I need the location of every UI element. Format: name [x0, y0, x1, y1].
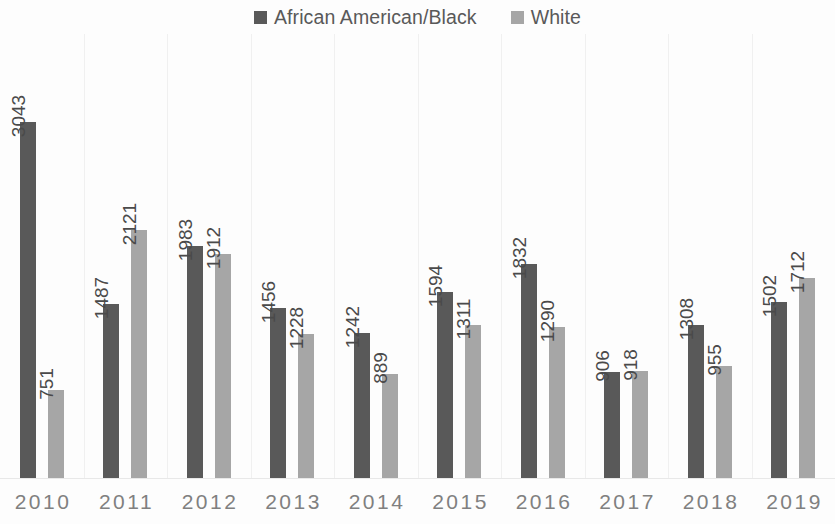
bar-pair: 19831912: [167, 34, 251, 478]
bar-white-2017[interactable]: 918: [632, 34, 648, 478]
bar-rect[interactable]: [799, 278, 815, 478]
bar-group-2014: 1242889: [334, 34, 418, 478]
chart-plot-area: 3043751148721211983191214561228124288915…: [0, 34, 835, 478]
bar-group-2018: 1308955: [668, 34, 752, 478]
bar-pair: 15021712: [752, 34, 835, 478]
bar-pair: 1242889: [334, 34, 418, 478]
bar-rect[interactable]: [632, 371, 648, 478]
bar-group-2016: 18321290: [501, 34, 585, 478]
bar-value-label: 1487: [92, 277, 111, 319]
legend-label: African American/Black: [274, 6, 477, 29]
bar-group-2017: 906918: [585, 34, 669, 478]
bar-pair: 3043751: [0, 34, 84, 478]
x-axis-tick-labels: 2010201120122013201420152016201720182019: [0, 479, 835, 524]
bar-rect[interactable]: [48, 390, 64, 478]
x-tick-label-2013: 2013: [251, 479, 335, 524]
bar-value-label: 1594: [426, 264, 445, 306]
bar-pair: 1308955: [668, 34, 752, 478]
bar-white-2012[interactable]: 1912: [215, 34, 231, 478]
legend-entry-african-american-black: African American/Black: [254, 6, 477, 29]
bar-black-2015[interactable]: 1594: [437, 34, 453, 478]
bar-group-2013: 14561228: [251, 34, 335, 478]
bar-black-2016[interactable]: 1832: [521, 34, 537, 478]
x-tick-label-2011: 2011: [84, 479, 168, 524]
bar-value-label: 906: [593, 350, 612, 382]
bar-group-2012: 19831912: [167, 34, 251, 478]
bar-group-2015: 15941311: [418, 34, 502, 478]
bar-pair: 18321290: [501, 34, 585, 478]
legend-label: White: [531, 6, 581, 29]
x-tick-label-2010: 2010: [0, 479, 84, 524]
bar-value-label: 3043: [9, 95, 28, 137]
x-tick-label-2015: 2015: [418, 479, 502, 524]
bar-black-2011[interactable]: 1487: [103, 34, 119, 478]
bar-rect[interactable]: [604, 372, 620, 478]
bar-value-label: 2121: [120, 203, 139, 245]
legend-swatch-icon: [254, 11, 267, 24]
bar-black-2013[interactable]: 1456: [270, 34, 286, 478]
bar-white-2011[interactable]: 2121: [131, 34, 147, 478]
chart-legend: African American/Black White: [0, 0, 835, 34]
bar-white-2013[interactable]: 1228: [298, 34, 314, 478]
bar-pair: 906918: [585, 34, 669, 478]
legend-entry-white: White: [511, 6, 581, 29]
x-tick-label-2017: 2017: [585, 479, 669, 524]
bar-value-label: 955: [705, 344, 724, 376]
bar-black-2010[interactable]: 3043: [20, 34, 36, 478]
bar-rect[interactable]: [521, 264, 537, 478]
bar-rect[interactable]: [437, 292, 453, 478]
x-tick-label-2019: 2019: [752, 479, 835, 524]
bar-rect[interactable]: [131, 230, 147, 478]
bar-rect[interactable]: [771, 302, 787, 478]
bar-group-2010: 3043751: [0, 34, 84, 478]
bar-value-label: 889: [371, 352, 390, 384]
bar-group-2011: 14872121: [84, 34, 168, 478]
bar-value-label: 1456: [259, 281, 278, 323]
bar-white-2014[interactable]: 889: [382, 34, 398, 478]
bar-rect[interactable]: [298, 334, 314, 478]
bar-rect[interactable]: [716, 366, 732, 478]
bar-groups: 3043751148721211983191214561228124288915…: [0, 34, 835, 478]
bar-rect[interactable]: [382, 374, 398, 478]
bar-pair: 14561228: [251, 34, 335, 478]
bar-value-label: 1242: [343, 306, 362, 348]
bar-white-2018[interactable]: 955: [716, 34, 732, 478]
bar-rect[interactable]: [103, 304, 119, 478]
bar-rect[interactable]: [215, 254, 231, 478]
bar-rect[interactable]: [549, 327, 565, 478]
legend-swatch-icon: [511, 11, 524, 24]
x-tick-label-2012: 2012: [167, 479, 251, 524]
bar-value-label: 1311: [454, 298, 473, 339]
bar-rect[interactable]: [354, 333, 370, 478]
bar-value-label: 1308: [677, 298, 696, 340]
bar-rect[interactable]: [187, 246, 203, 478]
bar-value-label: 918: [621, 349, 640, 381]
bar-rect[interactable]: [688, 325, 704, 478]
bar-rect[interactable]: [270, 308, 286, 478]
bar-value-label: 1228: [287, 307, 306, 349]
x-tick-label-2014: 2014: [334, 479, 418, 524]
x-tick-label-2018: 2018: [668, 479, 752, 524]
bar-value-label: 1912: [204, 227, 223, 269]
bar-value-label: 1983: [176, 219, 195, 261]
bar-value-label: 1712: [788, 251, 807, 293]
bar-pair: 14872121: [84, 34, 168, 478]
x-tick-label-2016: 2016: [501, 479, 585, 524]
bar-group-2019: 15021712: [752, 34, 835, 478]
bar-value-label: 1502: [760, 275, 779, 317]
bar-black-2014[interactable]: 1242: [354, 34, 370, 478]
bar-black-2012[interactable]: 1983: [187, 34, 203, 478]
bar-black-2019[interactable]: 1502: [771, 34, 787, 478]
bar-white-2016[interactable]: 1290: [549, 34, 565, 478]
bar-white-2015[interactable]: 1311: [465, 34, 481, 478]
bar-value-label: 751: [37, 368, 56, 400]
bar-black-2018[interactable]: 1308: [688, 34, 704, 478]
bar-rect[interactable]: [465, 325, 481, 478]
bar-value-label: 1832: [510, 237, 529, 279]
bar-white-2010[interactable]: 751: [48, 34, 64, 478]
bar-rect[interactable]: [20, 122, 36, 478]
bar-white-2019[interactable]: 1712: [799, 34, 815, 478]
bar-pair: 15941311: [418, 34, 502, 478]
bar-value-label: 1290: [538, 300, 557, 342]
bar-black-2017[interactable]: 906: [604, 34, 620, 478]
